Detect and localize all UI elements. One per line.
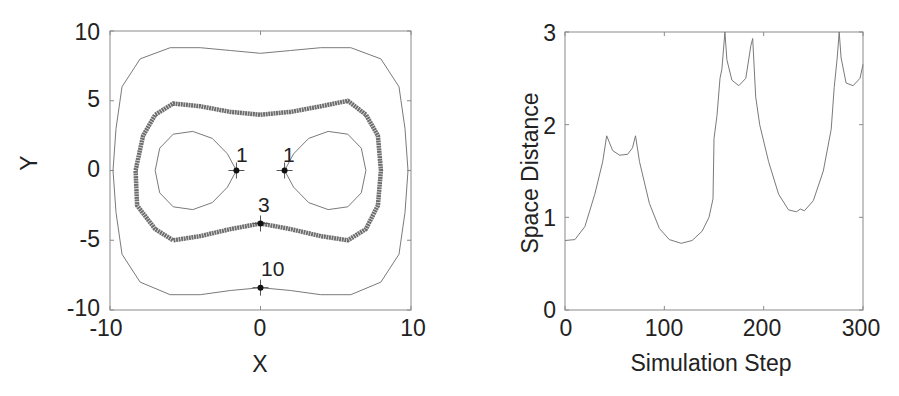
right-ytick-0: 0 — [543, 297, 556, 323]
right-xtick-200: 200 — [743, 315, 781, 341]
left-plot: 10 5 0 -5 -10 -10 0 10 X Y 1 1 3 10 — [16, 19, 426, 377]
left-xlabel: X — [252, 351, 267, 377]
left-xtick-10: 10 — [400, 315, 426, 341]
left-ytick-0: 0 — [87, 156, 100, 182]
left-ytick-5: 5 — [87, 86, 100, 112]
marker-point — [253, 216, 269, 232]
annotation-1-left: 1 — [236, 143, 248, 166]
right-xtick-0: 0 — [560, 315, 573, 341]
right-ytick-3: 3 — [543, 20, 556, 46]
figure: 10 5 0 -5 -10 -10 0 10 X Y 1 1 3 10 3 2 … — [0, 0, 899, 396]
contour-3-curve — [136, 101, 381, 241]
right-ytick-1: 1 — [543, 205, 556, 231]
left-ytick-neg5: -5 — [80, 226, 100, 252]
left-ytick-10: 10 — [74, 19, 100, 45]
left-xtick-neg10: -10 — [89, 315, 122, 341]
right-axes-box — [565, 32, 863, 310]
right-xtick-100: 100 — [645, 315, 683, 341]
right-xlabel: Simulation Step — [630, 350, 791, 376]
right-plot-area — [565, 32, 863, 243]
marker-point — [253, 280, 269, 296]
contour-1-right-curve — [285, 131, 366, 209]
space-distance-line — [565, 32, 863, 243]
annotation-1-right: 1 — [283, 143, 295, 166]
right-ytick-2: 2 — [543, 113, 556, 139]
left-ylabel: Y — [16, 155, 42, 170]
annotation-3: 3 — [258, 193, 270, 216]
right-ticks — [565, 32, 863, 310]
annotation-10: 10 — [261, 257, 284, 280]
right-plot: 3 2 1 0 0 100 200 300 Simulation Step Sp… — [517, 20, 880, 376]
right-ylabel: Space Distance — [517, 92, 543, 253]
contour-1-left-curve — [155, 131, 236, 209]
right-xtick-300: 300 — [842, 315, 880, 341]
left-xtick-0: 0 — [254, 315, 267, 341]
